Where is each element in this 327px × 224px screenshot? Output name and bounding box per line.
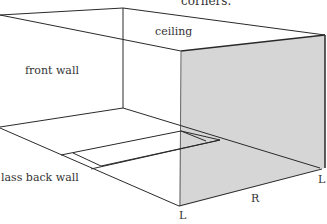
- back-wall-label: lass back wall: [1, 172, 79, 183]
- ceiling-back-edge: [0, 8, 123, 15]
- ceiling-label: ceiling: [155, 26, 192, 37]
- caption-fragment: corners.: [181, 0, 231, 7]
- shaded-side-wall: [179, 35, 325, 207]
- ceiling-front-edge: [0, 15, 181, 51]
- edge-label-r: R: [251, 193, 259, 204]
- ceiling-top-right-edge: [123, 8, 325, 35]
- floor-back-edge: [0, 108, 123, 127]
- corner-label-right: L: [318, 174, 325, 185]
- front-wall-label: front wall: [25, 65, 79, 76]
- floor-inner-left-end: [73, 153, 101, 166]
- corner-label-left: L: [179, 210, 186, 221]
- floor-left-edge: [0, 128, 179, 206]
- room-perspective-diagram: corners. ceiling front wall lass back wa…: [0, 0, 327, 224]
- floor-inner-line-top: [61, 131, 181, 155]
